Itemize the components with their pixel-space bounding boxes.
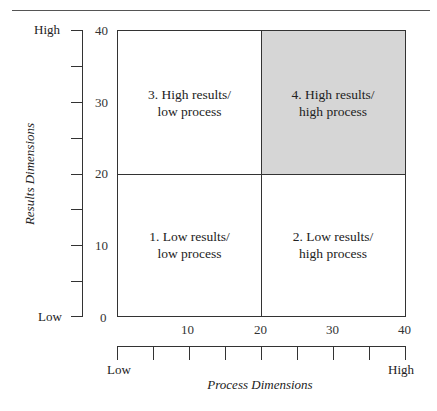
x-scale-tick bbox=[333, 346, 334, 360]
x-tick-label: 20 bbox=[254, 322, 267, 338]
x-scale-tick bbox=[225, 346, 226, 360]
quadrant-1-label-line1: 1. Low results/ bbox=[149, 228, 230, 245]
y-scale-tick bbox=[71, 316, 82, 317]
quadrant-2-low-results-high-process: 2. Low results/high process bbox=[261, 174, 405, 316]
y-scale-low-label: Low bbox=[38, 309, 62, 325]
y-scale-tick bbox=[71, 30, 82, 31]
y-scale-tick bbox=[71, 209, 82, 210]
x-scale-tick bbox=[297, 346, 298, 360]
x-scale-tick bbox=[189, 346, 190, 360]
x-tick-label: 10 bbox=[181, 322, 194, 338]
y-scale-high-label: High bbox=[34, 22, 60, 38]
quadrant-2-label-line2: high process bbox=[293, 245, 374, 262]
x-axis-title: Process Dimensions bbox=[190, 377, 330, 393]
x-scale-tick bbox=[405, 346, 406, 360]
y-scale-tick bbox=[71, 138, 82, 139]
y-tick-label: 0 bbox=[100, 310, 107, 326]
quadrant-3-label-line1: 3. High results/ bbox=[148, 86, 231, 103]
y-scale-line bbox=[82, 30, 83, 317]
quadrant-4-label-line2: high process bbox=[292, 103, 375, 120]
y-scale-tick bbox=[71, 281, 82, 282]
quadrant-4-label-line1: 4. High results/ bbox=[292, 86, 375, 103]
x-scale-tick bbox=[261, 346, 262, 360]
x-tick-label: 30 bbox=[326, 322, 339, 338]
quadrant-2-label-line1: 2. Low results/ bbox=[293, 228, 374, 245]
quadrant-grid: 3. High results/low process 4. High resu… bbox=[117, 30, 406, 317]
y-tick-label: 30 bbox=[95, 95, 108, 111]
x-scale-low-label: Low bbox=[107, 362, 131, 378]
y-tick-label: 40 bbox=[95, 23, 108, 39]
y-scale-tick bbox=[71, 66, 82, 67]
x-scale-tick bbox=[117, 346, 118, 360]
top-rule bbox=[12, 10, 430, 11]
y-axis-title: Results Dimensions bbox=[22, 114, 38, 234]
horizontal-divider bbox=[118, 174, 405, 175]
y-scale-tick bbox=[71, 245, 82, 246]
quadrant-3-label-line2: low process bbox=[148, 103, 231, 120]
x-tick-label: 40 bbox=[398, 322, 411, 338]
y-tick-label: 10 bbox=[95, 238, 108, 254]
quadrant-3-high-results-low-process: 3. High results/low process bbox=[118, 31, 261, 174]
y-tick-label: 20 bbox=[95, 166, 108, 182]
x-scale-high-label: High bbox=[388, 362, 414, 378]
quadrant-1-low-results-low-process: 1. Low results/low process bbox=[118, 174, 261, 316]
y-scale-tick bbox=[71, 174, 82, 175]
y-scale-tick bbox=[71, 102, 82, 103]
x-scale-tick bbox=[369, 346, 370, 360]
x-scale-tick bbox=[153, 346, 154, 360]
quadrant-4-high-results-high-process: 4. High results/high process bbox=[261, 31, 405, 174]
quadrant-1-label-line2: low process bbox=[149, 245, 230, 262]
